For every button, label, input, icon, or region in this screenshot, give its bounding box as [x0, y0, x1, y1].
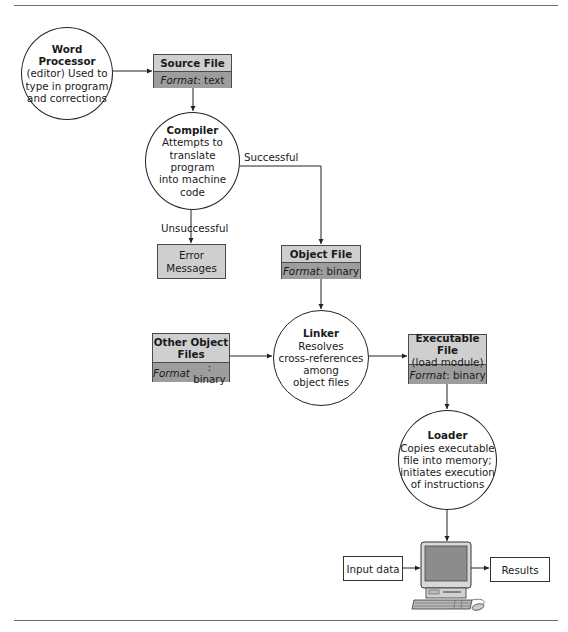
executable-file-title: Executable File (load module) [409, 335, 486, 365]
executable-file-node: Executable File (load module) Format: bi… [408, 334, 487, 384]
compiler-line: into machine [159, 173, 226, 185]
executable-file-format: Format: binary [409, 365, 486, 384]
source-file-format: Format: text [154, 72, 231, 88]
format-label: Format [161, 74, 198, 86]
linker-title: Linker [303, 327, 339, 339]
loader-line: of instructions [411, 478, 485, 490]
input-data-node: Input data [343, 556, 403, 581]
other-object-files-node: Other Object Files Format: binary [152, 333, 230, 382]
input-data-label: Input data [346, 563, 399, 575]
error-messages-line: Messages [158, 262, 225, 275]
format-label: Format [409, 369, 446, 381]
loader-line: initiates execution [400, 466, 495, 478]
linker-node: Linker Resolves cross-references among o… [273, 310, 369, 406]
results-label: Results [501, 564, 538, 576]
compiler-title: Compiler [167, 124, 219, 136]
unsuccessful-label: Unsuccessful [161, 222, 228, 234]
arrow-compiler-to-object [239, 166, 321, 244]
successful-label: Successful [244, 151, 298, 163]
object-file-format: Format: binary [282, 263, 360, 279]
error-messages-line: Error [158, 249, 225, 262]
object-file-title: Object File [282, 246, 360, 263]
computer-icon [412, 542, 485, 611]
format-label: Format [153, 367, 190, 379]
source-file-title: Source File [154, 55, 231, 72]
word-processor-line: and corrections [27, 92, 107, 104]
format-value: : binary [446, 369, 485, 381]
other-object-files-title-line: Files [153, 348, 229, 360]
object-file-node: Object File Format: binary [281, 245, 361, 279]
results-node: Results [490, 557, 550, 582]
loader-title: Loader [427, 429, 467, 441]
loader-line: Copies executable [400, 442, 494, 454]
other-object-files-title-line: Other Object [153, 336, 229, 348]
word-processor-title: Word Processor [22, 43, 112, 68]
executable-file-title-line: Executable File [409, 332, 486, 356]
linker-line: cross-references [279, 352, 364, 364]
format-label: Format [283, 265, 320, 277]
compiler-line: Attempts to [162, 136, 223, 148]
compiler-node: Compiler Attempts to translate program i… [145, 112, 240, 210]
format-value: : binary [320, 265, 359, 277]
format-value: : binary [190, 361, 229, 385]
other-object-files-title: Other Object Files [153, 334, 229, 363]
executable-file-subtitle: (load module) [409, 356, 486, 368]
format-value: : text [197, 74, 224, 86]
linker-line: among [303, 364, 339, 376]
other-object-files-format: Format: binary [153, 363, 229, 382]
source-file-node: Source File Format: text [153, 54, 232, 88]
word-processor-line: (editor) Used to [27, 67, 108, 79]
linker-line: Resolves [298, 340, 343, 352]
word-processor-node: Word Processor (editor) Used to type in … [21, 27, 113, 120]
compiler-line: code [180, 186, 205, 198]
word-processor-line: type in program [26, 80, 109, 92]
loader-node: Loader Copies executable file into memor… [398, 410, 497, 510]
error-messages-node: Error Messages [157, 244, 226, 279]
linker-line: object files [293, 376, 349, 388]
compiler-line: translate program [146, 149, 239, 174]
loader-line: file into memory; [403, 454, 491, 466]
